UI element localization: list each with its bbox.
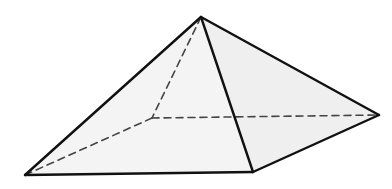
diagram-canvas <box>0 0 392 189</box>
pyramid-figure <box>0 0 392 189</box>
